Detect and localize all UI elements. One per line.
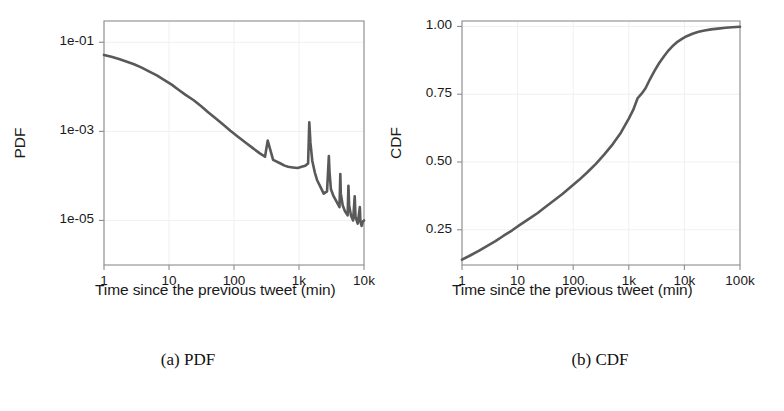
y-tick-label: 0.50 — [382, 153, 452, 168]
x-tick-label: 1 — [74, 273, 134, 288]
x-tick-label: 1k — [599, 273, 659, 288]
figure-root: PDF Time since the previous tweet (min) … — [0, 0, 784, 411]
x-tick-label: 100 — [543, 273, 603, 288]
y-tick-label: 1e-01 — [24, 33, 94, 48]
x-tick-label: 1 — [432, 273, 492, 288]
y-tick-label: 1.00 — [382, 17, 452, 32]
x-tick-label: 10k — [654, 273, 714, 288]
y-tick-label: 0.25 — [382, 221, 452, 236]
panel-cdf: CDF Time since the previous tweet (min) … — [390, 0, 784, 411]
subfigure-caption-a: (a) PDF — [118, 350, 258, 370]
x-tick-label: 100k — [710, 273, 770, 288]
x-tick-label: 10 — [139, 273, 199, 288]
x-tick-label: 1k — [269, 273, 329, 288]
x-tick-label: 10k — [334, 273, 394, 288]
panel-pdf: PDF Time since the previous tweet (min) … — [0, 0, 400, 411]
subfigure-caption-b: (b) CDF — [530, 350, 670, 370]
x-tick-label: 10 — [488, 273, 548, 288]
x-tick-label: 100 — [204, 273, 264, 288]
y-tick-label: 1e-03 — [24, 122, 94, 137]
plot-panel-background — [462, 21, 740, 265]
y-tick-label: 0.75 — [382, 85, 452, 100]
y-tick-label: 1e-05 — [24, 211, 94, 226]
